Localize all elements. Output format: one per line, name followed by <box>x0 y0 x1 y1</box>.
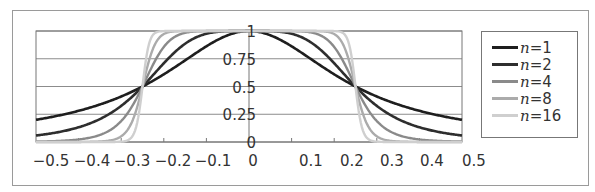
x-tick-label: 0.1 <box>299 152 323 170</box>
legend-item-n16: n=16 <box>492 107 561 124</box>
legend: n=1 n=2 n=4 n=8 n=16 <box>481 31 578 138</box>
legend-label-n16: =16 <box>530 107 562 125</box>
legend-var: n <box>520 107 530 125</box>
legend-label-n1: =1 <box>530 39 552 57</box>
y-tick-label: 1 <box>246 23 256 41</box>
legend-swatch-n8 <box>492 97 518 100</box>
y-tick-label: 0.25 <box>223 106 256 124</box>
x-tick-label: −0.2 <box>155 152 191 170</box>
legend-label-n4: =4 <box>530 73 552 91</box>
x-tick-label: −0.4 <box>74 152 110 170</box>
legend-swatch-n4 <box>492 80 518 83</box>
x-tick-label: 0.5 <box>462 152 486 170</box>
legend-var: n <box>520 39 530 57</box>
x-tick-label: −0.1 <box>195 152 231 170</box>
y-tick-label: 0 <box>246 134 256 152</box>
y-tick-label: 0.75 <box>223 51 256 69</box>
x-tick-label: −0.3 <box>114 152 150 170</box>
x-tick-label: 0.4 <box>420 152 444 170</box>
legend-item-n2: n=2 <box>492 56 552 73</box>
y-tick-label: 0.5 <box>232 79 256 97</box>
legend-var: n <box>520 56 530 74</box>
x-tick-label: −0.5 <box>33 152 69 170</box>
legend-label-n8: =8 <box>530 90 552 108</box>
legend-swatch-n16 <box>492 114 518 117</box>
x-tick-label: 0.2 <box>340 152 364 170</box>
legend-item-n8: n=8 <box>492 90 552 107</box>
y-axis-tick-labels: 00.250.50.751 <box>223 23 256 152</box>
legend-label-n2: =2 <box>530 56 552 74</box>
legend-item-n4: n=4 <box>492 73 552 90</box>
legend-item-n1: n=1 <box>492 39 552 56</box>
x-tick-label: 0 <box>248 152 258 170</box>
legend-swatch-n1 <box>492 46 518 49</box>
legend-swatch-n2 <box>492 63 518 66</box>
legend-var: n <box>520 90 530 108</box>
legend-var: n <box>520 73 530 91</box>
x-tick-label: 0.3 <box>380 152 404 170</box>
x-axis-tick-labels: −0.5−0.4−0.3−0.2−0.100.10.20.30.40.5 <box>33 152 486 170</box>
